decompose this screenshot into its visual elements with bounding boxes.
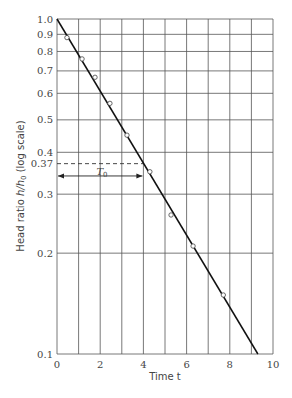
arrowhead-right-icon xyxy=(136,173,142,178)
y-tick-label: 0.1 xyxy=(37,349,53,360)
y-tick-label: 0.9 xyxy=(37,29,53,40)
x-tick-label: 10 xyxy=(267,359,280,370)
y-tick-label: 0.4 xyxy=(37,147,53,158)
data-point-circle-icon xyxy=(169,213,173,217)
y-tick-label: 0.6 xyxy=(37,88,53,99)
data-point-circle-icon xyxy=(148,170,152,174)
fit-line xyxy=(57,19,258,354)
y-axis-ticks: 1.00.90.80.70.60.50.40.370.30.20.1 xyxy=(31,14,53,360)
x-tick-label: 2 xyxy=(97,359,103,370)
arrowhead-left-icon xyxy=(58,173,64,178)
data-point-circle-icon xyxy=(125,133,129,137)
data-point-circle-icon xyxy=(191,244,195,248)
chart: 1.00.90.80.70.60.50.40.370.30.20.1 02468… xyxy=(0,0,292,398)
data-point-circle-icon xyxy=(221,293,225,297)
t0-label: T0 xyxy=(96,166,107,179)
y-tick-label: 0.37 xyxy=(31,158,53,169)
y-tick-label: 0.5 xyxy=(37,114,53,125)
y-tick-label: 0.8 xyxy=(37,46,53,57)
x-tick-label: 6 xyxy=(183,359,189,370)
data-point-circle-icon xyxy=(93,75,97,79)
y-tick-label: 1.0 xyxy=(37,14,53,25)
y-axis-label: Head ratio h/h0 (log scale) xyxy=(15,120,28,251)
data-point-circle-icon xyxy=(108,101,112,105)
y-tick-label: 0.3 xyxy=(37,189,53,200)
x-tick-label: 8 xyxy=(227,359,233,370)
data-point-circle-icon xyxy=(80,57,84,61)
x-axis-ticks: 0246810 xyxy=(54,359,280,370)
best-fit-line xyxy=(57,19,258,354)
data-point-circle-icon xyxy=(65,35,69,39)
y-tick-label: 0.2 xyxy=(37,248,53,259)
x-axis-label: Time t xyxy=(148,371,181,382)
y-tick-label: 0.7 xyxy=(37,65,53,76)
x-tick-label: 0 xyxy=(54,359,60,370)
x-tick-label: 4 xyxy=(140,359,146,370)
grid xyxy=(57,19,273,354)
